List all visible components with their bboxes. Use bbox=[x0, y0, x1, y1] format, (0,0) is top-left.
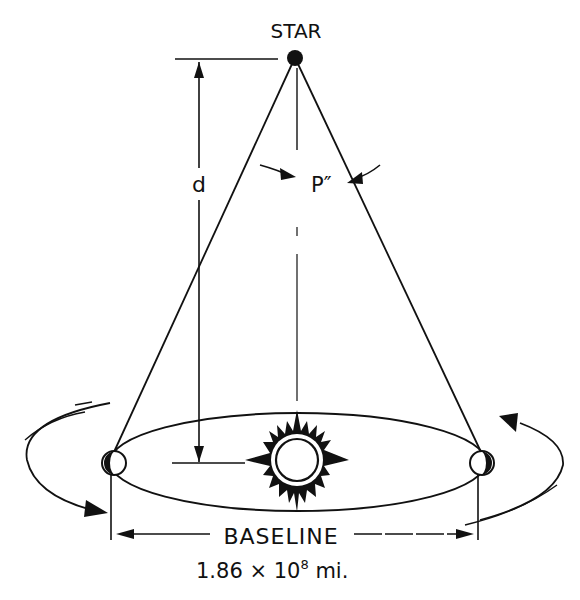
sun-icon bbox=[245, 410, 349, 512]
parallax-angle-label: P″ bbox=[311, 173, 332, 197]
star-icon bbox=[287, 50, 303, 66]
parallax-diagram: STAR d P″ bbox=[0, 0, 580, 600]
distance-dimension bbox=[172, 62, 245, 463]
baseline-value: 1.86 × 108 mi. bbox=[196, 557, 348, 583]
orbit-arrowhead-right bbox=[499, 413, 518, 432]
orbit-arrowhead-left bbox=[84, 500, 108, 517]
sight-line-left bbox=[114, 64, 292, 452]
earth-icon-right bbox=[470, 451, 494, 475]
baseline-value-mantissa: 1.86 × 10 bbox=[196, 559, 300, 583]
earth-icon-left bbox=[102, 451, 126, 475]
baseline-value-exponent: 8 bbox=[300, 557, 308, 572]
baseline-value-unit: mi. bbox=[309, 559, 349, 583]
star-label: STAR bbox=[271, 19, 322, 43]
sight-line-right bbox=[298, 64, 481, 452]
distance-label: d bbox=[192, 172, 206, 197]
baseline-label: BASELINE bbox=[223, 524, 338, 549]
